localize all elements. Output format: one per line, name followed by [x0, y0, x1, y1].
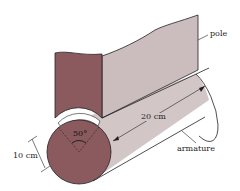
diameter-tick-top [28, 136, 37, 142]
angle-label: 50° [73, 130, 87, 138]
length-label: 20 cm [140, 113, 167, 121]
pole-label: pole [210, 30, 227, 38]
armature-label: armature [177, 145, 215, 153]
pole-front-face [55, 52, 102, 118]
armature-leader [182, 131, 196, 143]
diameter-tick-bottom [41, 166, 50, 172]
pole-armature-diagram [0, 0, 240, 191]
diameter-label: 10 cm [13, 152, 38, 160]
pole-leader [198, 35, 208, 40]
